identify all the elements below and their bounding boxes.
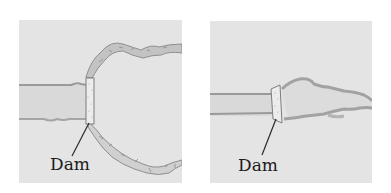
reservoir-diagram-left: Dam bbox=[19, 20, 182, 183]
dam-label: Dam bbox=[50, 156, 90, 173]
bank-shadow bbox=[328, 115, 344, 117]
river-bank-top bbox=[19, 83, 87, 85]
river-bank-bottom bbox=[210, 113, 272, 114]
shoreline-lower bbox=[88, 122, 182, 175]
dam-label: Dam bbox=[238, 157, 278, 174]
dam-leader-line bbox=[72, 123, 89, 156]
left-diagram-drawing bbox=[19, 20, 182, 183]
dam-structure bbox=[86, 78, 94, 124]
river-channel bbox=[19, 85, 87, 119]
reservoir-diagram-right: Dam bbox=[210, 21, 372, 183]
dam-leader-line bbox=[262, 119, 276, 155]
right-diagram-drawing bbox=[210, 21, 372, 183]
river-bank-bottom bbox=[19, 119, 87, 121]
dam-structure bbox=[271, 85, 282, 123]
